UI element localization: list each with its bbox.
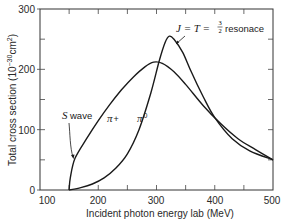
resonance-annotation: J = T = 3 2 resonace bbox=[176, 19, 264, 44]
x-tick-label: 300 bbox=[148, 195, 165, 206]
data-series bbox=[69, 36, 273, 190]
pi-zero-label: π0 bbox=[137, 112, 148, 124]
x-tick-label: 100 bbox=[39, 195, 56, 206]
cross-section-chart: 300 200 100 0 100 200 300 400 500 Incide… bbox=[0, 0, 285, 223]
y-tick-label: 100 bbox=[18, 125, 35, 136]
svg-text:J = T =: J = T = bbox=[176, 22, 210, 34]
axis-ticks bbox=[37, 9, 273, 190]
x-axis-title: Incident photon energy lab (MeV) bbox=[86, 208, 234, 219]
x-tick-label: 400 bbox=[207, 195, 224, 206]
plot-frame bbox=[40, 9, 273, 190]
x-tick-label: 200 bbox=[90, 195, 107, 206]
s-wave-arrow bbox=[69, 123, 73, 157]
s-wave-annotation: S wave bbox=[62, 109, 92, 159]
svg-text:wave: wave bbox=[69, 110, 92, 121]
pi-zero-curve bbox=[69, 36, 273, 190]
svg-text:3: 3 bbox=[218, 19, 221, 26]
pi-plus-label: π+ bbox=[107, 112, 119, 124]
svg-text:S: S bbox=[62, 109, 68, 121]
y-tick-label: 200 bbox=[18, 64, 35, 75]
svg-text:2: 2 bbox=[218, 27, 221, 34]
y-tick-label: 300 bbox=[18, 4, 35, 15]
svg-text:resonace: resonace bbox=[225, 23, 264, 34]
pi-plus-curve bbox=[69, 62, 273, 190]
x-tick-label: 500 bbox=[264, 195, 281, 206]
y-tick-label: 0 bbox=[29, 185, 35, 196]
arrow-head-icon bbox=[71, 155, 75, 159]
y-axis-title: Total cross section (10−30cm2) bbox=[6, 34, 18, 166]
